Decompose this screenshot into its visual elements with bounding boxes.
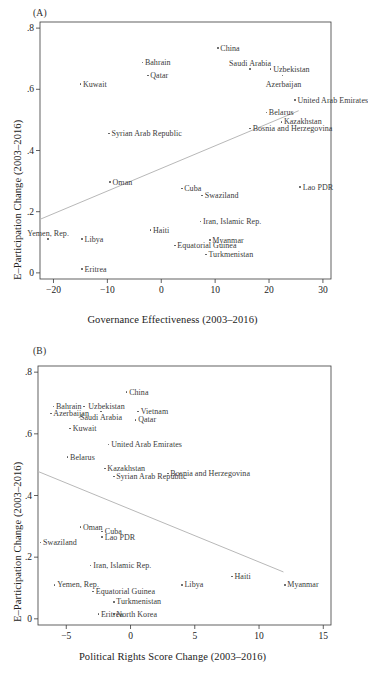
panel-b-ytick-3: .6 xyxy=(12,429,32,439)
data-point xyxy=(113,613,115,615)
data-point-label: Saudi Arabia xyxy=(229,60,271,68)
panel-b-ytick-0: 0 xyxy=(12,614,32,624)
panel-b-plot-area xyxy=(0,340,345,678)
data-point-label: Uzbekistan xyxy=(273,66,310,74)
data-point xyxy=(113,476,115,478)
data-point-label: Libya xyxy=(85,236,104,244)
data-point-label: Swaziland xyxy=(205,192,239,200)
data-point-label: Equatorial Guinea xyxy=(96,588,155,596)
data-point xyxy=(294,99,296,101)
panel-b-xtick-1: 0 xyxy=(128,631,133,641)
data-point-label: Qatar xyxy=(150,72,168,80)
data-point-label: Cuba xyxy=(184,185,201,193)
data-point-label: China xyxy=(220,45,239,53)
data-point xyxy=(217,47,219,49)
data-point-label: Uzbekistan xyxy=(88,403,125,411)
panel-b: (B) E–Participation Change (2003–2016) P… xyxy=(0,340,345,678)
data-point-label: Saudi Arabia xyxy=(80,414,122,422)
data-point xyxy=(281,121,283,123)
panel-b-xtick-2: 5 xyxy=(192,631,197,641)
data-point-label: Yemen, Rep. xyxy=(57,581,99,589)
data-point xyxy=(284,584,286,586)
data-point xyxy=(80,83,82,85)
data-point-label: Iran, Islamic Rep. xyxy=(93,562,151,570)
data-point xyxy=(181,188,183,190)
data-point-label: Lao PDR xyxy=(105,534,135,542)
data-point xyxy=(181,584,183,586)
data-point-label: Kuwait xyxy=(73,425,97,433)
data-point-label: Oman xyxy=(113,179,133,187)
panel-a-ytick-1: .2 xyxy=(14,207,34,217)
data-point xyxy=(174,245,176,247)
data-point-label: North Korea xyxy=(116,611,157,619)
data-point-label: Lao PDR xyxy=(303,184,333,192)
data-point-label: Iran, Islamic Rep. xyxy=(203,218,261,226)
data-point-label: Syrian Arab Republic xyxy=(111,130,181,138)
data-point-label: Yemen, Rep. xyxy=(27,230,69,238)
data-point-label: Belarus xyxy=(269,109,294,117)
data-point xyxy=(81,268,83,270)
data-point-label: China xyxy=(129,389,148,397)
panel-a-ytick-4: .8 xyxy=(14,23,34,33)
panel-b-xtick-4: 15 xyxy=(319,631,329,641)
data-point xyxy=(109,181,111,183)
data-point-label: Bahrain xyxy=(145,59,171,67)
panel-b-xtick-0: −5 xyxy=(61,631,71,641)
data-point xyxy=(101,536,103,538)
panel-a-ytick-2: .4 xyxy=(14,146,34,156)
data-point-label: Haiti xyxy=(153,227,169,235)
data-point xyxy=(81,238,83,240)
panel-b-xtick-3: 10 xyxy=(254,631,264,641)
data-point-label: Equatorial Guinea xyxy=(177,242,236,250)
data-point-label: Swaziland xyxy=(43,539,77,547)
data-point-label: United Arab Emirates xyxy=(297,97,368,105)
data-point xyxy=(249,68,251,70)
data-point-label: Libya xyxy=(184,581,203,589)
data-point xyxy=(113,601,115,603)
panel-a-xtick-4: 20 xyxy=(264,285,274,295)
data-point-label: Turkmenistan xyxy=(208,251,253,259)
panel-b-ytick-4: .8 xyxy=(12,367,32,377)
data-point-label: Bosnia and Herzegovina xyxy=(253,125,333,133)
panel-a-xtick-0: −20 xyxy=(46,285,61,295)
data-point-label: Haiti xyxy=(235,573,251,581)
data-point-label: United Arab Emirates xyxy=(111,441,182,449)
data-point-label: Azerbaijan xyxy=(266,81,302,89)
panel-b-ytick-2: .4 xyxy=(12,491,32,501)
data-point-label: Eritrea xyxy=(85,266,107,274)
panel-a-ytick-0: 0 xyxy=(14,268,34,278)
panel-a-xtick-2: 0 xyxy=(159,285,164,295)
data-point-label: Syrian Arab Republic xyxy=(116,473,186,481)
data-point-label: Oman xyxy=(83,524,103,532)
panel-b-ytick-1: .2 xyxy=(12,552,32,562)
data-point xyxy=(47,238,49,240)
data-point-label: Myanmar xyxy=(287,581,318,589)
panel-a: (A) E–Participation Change (2003–2016) G… xyxy=(0,0,345,340)
panel-a-xtick-5: 30 xyxy=(318,285,328,295)
panel-a-xtick-1: −10 xyxy=(100,285,115,295)
data-point-label: Qatar xyxy=(138,416,156,424)
panel-a-ytick-3: .6 xyxy=(14,84,34,94)
data-point-label: Kuwait xyxy=(83,81,107,89)
data-point-label: Turkmenistan xyxy=(116,598,161,606)
panel-a-xtick-3: 10 xyxy=(210,285,220,295)
data-point-label: Belarus xyxy=(70,454,95,462)
